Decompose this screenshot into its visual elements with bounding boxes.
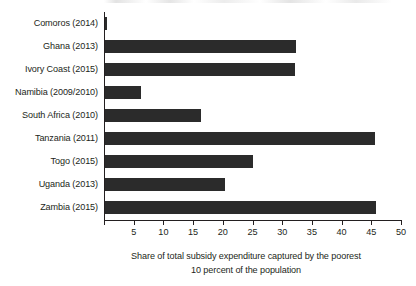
x-axis-tick <box>193 220 194 225</box>
page-text-artifact <box>104 0 404 3</box>
bar-row: Tanzania (2011) <box>0 127 416 150</box>
category-label: South Africa (2010) <box>0 104 98 127</box>
bar-row: Togo (2015) <box>0 150 416 173</box>
x-axis-tick <box>312 220 313 225</box>
category-label: Zambia (2015) <box>0 196 98 219</box>
bar <box>105 201 376 214</box>
bar <box>105 17 107 30</box>
bar <box>105 109 201 122</box>
x-axis-tick <box>223 220 224 225</box>
category-label: Uganda (2013) <box>0 173 98 196</box>
bar <box>105 86 141 99</box>
category-label: Comoros (2014) <box>0 12 98 35</box>
x-axis-tick-label: 50 <box>386 227 416 237</box>
bar-row: South Africa (2010) <box>0 104 416 127</box>
bar-row: Comoros (2014) <box>0 12 416 35</box>
bar-row: Ghana (2013) <box>0 35 416 58</box>
x-axis-tick-label: 25 <box>238 227 268 237</box>
bar <box>105 155 253 168</box>
bar <box>105 132 375 145</box>
bar <box>105 178 225 191</box>
x-axis-tick-label: 20 <box>208 227 238 237</box>
x-axis-tick <box>253 220 254 225</box>
x-axis-tick <box>401 220 402 225</box>
x-axis-title-line-2: 10 percent of the population <box>86 264 406 278</box>
category-label: Ivory Coast (2015) <box>0 58 98 81</box>
category-label: Namibia (2009/2010) <box>0 81 98 104</box>
x-axis-title-line-1: Share of total subsidy expenditure captu… <box>131 251 361 261</box>
category-label: Tanzania (2011) <box>0 127 98 150</box>
x-axis-tick-label: 15 <box>178 227 208 237</box>
bar <box>105 40 296 53</box>
x-axis-tick <box>282 220 283 225</box>
x-axis-tick <box>134 220 135 225</box>
x-axis-tick-label: 30 <box>267 227 297 237</box>
category-label: Togo (2015) <box>0 150 98 173</box>
horizontal-bar-chart: Comoros (2014)Ghana (2013)Ivory Coast (2… <box>0 0 416 286</box>
x-axis-tick <box>342 220 343 225</box>
bar-row: Namibia (2009/2010) <box>0 81 416 104</box>
x-axis-tick-label: 35 <box>297 227 327 237</box>
x-axis-title: Share of total subsidy expenditure captu… <box>86 250 406 277</box>
x-axis-tick-label: 10 <box>148 227 178 237</box>
x-axis-tick <box>371 220 372 225</box>
bar-row: Uganda (2013) <box>0 173 416 196</box>
x-axis-origin-tick <box>104 220 105 225</box>
x-axis-tick-label: 45 <box>356 227 386 237</box>
x-axis-tick-label: 5 <box>119 227 149 237</box>
x-axis-tick <box>163 220 164 225</box>
bar-row: Ivory Coast (2015) <box>0 58 416 81</box>
x-axis-tick-label: 40 <box>327 227 357 237</box>
category-label: Ghana (2013) <box>0 35 98 58</box>
bar-row: Zambia (2015) <box>0 196 416 219</box>
bar <box>105 63 295 76</box>
